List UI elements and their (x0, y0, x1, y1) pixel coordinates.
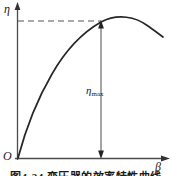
eta-max-label: ηmax (86, 85, 104, 96)
eta-max-label-subscript: max (91, 90, 103, 98)
x-axis (15, 156, 170, 162)
y-axis (15, 2, 21, 160)
efficiency-characteristic-figure: η β O ηmax 图4-24 变压器的效率特性曲线 (0, 0, 172, 176)
figure-caption: 图4-24 变压器的效率特性曲线 (0, 168, 172, 176)
y-axis-label: η (4, 3, 10, 15)
origin-label: O (3, 150, 12, 162)
